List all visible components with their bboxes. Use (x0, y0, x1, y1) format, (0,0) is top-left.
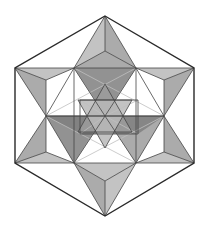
diagram-canvas (0, 0, 205, 228)
stellated-polyhedron-diagram (0, 0, 205, 228)
